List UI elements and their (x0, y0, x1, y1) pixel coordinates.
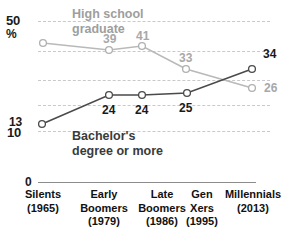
x-category-silents-name: Silents (8, 188, 78, 202)
x-category-millennials: Millennials (2013) (214, 188, 292, 215)
x-category-gen-xers-year: (1995) (178, 215, 226, 229)
x-category-millennials-name: Millennials (214, 188, 292, 202)
annotation-high-school-line1: High school (72, 7, 144, 21)
annotation-bachelors-line1: Bachelor's (72, 129, 135, 143)
annotation-high-school-line2: graduate (72, 22, 125, 36)
marker-hs-late-boomers (139, 43, 146, 50)
value-label-ba-millennials: 34 (263, 48, 276, 60)
x-category-early-boomers-year: (1979) (73, 215, 135, 229)
marker-hs-early-boomers (106, 47, 113, 54)
x-axis-line (38, 182, 256, 183)
marker-ba-gen-xers (184, 90, 191, 97)
marker-ba-silents (39, 121, 46, 128)
marker-ba-millennials (249, 66, 256, 73)
education-attainment-line-chart: 50 % 13 10 High school graduate Bachelor… (0, 0, 294, 231)
marker-ba-late-boomers (139, 92, 146, 99)
value-label-hs-gen-xers: 33 (179, 52, 192, 64)
value-label-hs-early-boomers: 39 (103, 33, 116, 45)
x-category-millennials-year: (2013) (214, 202, 292, 216)
marker-hs-silents (40, 40, 47, 47)
x-category-silents-year: (1965) (8, 202, 78, 216)
value-label-ba-early-boomers: 24 (102, 104, 115, 116)
value-label-ba-gen-xers: 25 (179, 102, 192, 114)
value-label-hs-late-boomers: 41 (136, 30, 149, 42)
x-category-early-boomers: Early Boomers (1979) (73, 188, 135, 229)
x-category-early-boomers-name: Early (73, 188, 135, 202)
marker-ba-early-boomers (106, 92, 113, 99)
value-label-ba-late-boomers: 24 (135, 104, 148, 116)
value-label-hs-millennials: 26 (264, 82, 277, 94)
annotation-bachelors-line2: degree or more (72, 144, 163, 158)
x-axis-zero-label: 0 (25, 176, 32, 188)
x-category-early-boomers-name2: Boomers (73, 202, 135, 216)
marker-hs-millennials (249, 85, 256, 92)
x-category-silents: Silents (1965) (8, 188, 78, 215)
marker-hs-gen-xers (183, 66, 190, 73)
